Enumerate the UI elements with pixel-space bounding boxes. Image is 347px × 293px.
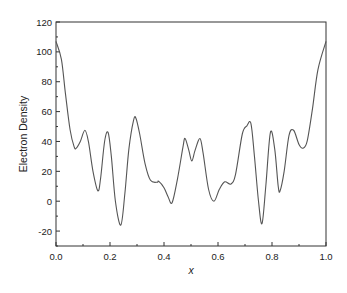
electron-density-line [56, 41, 326, 225]
plot-frame [56, 22, 326, 246]
y-tick-label: 80 [41, 76, 52, 87]
x-tick-label: 0.8 [265, 251, 278, 262]
x-tick-label: 0.4 [157, 251, 170, 262]
y-tick-label: 20 [41, 166, 52, 177]
y-tick-label: 100 [36, 46, 52, 57]
x-tick-label: 0.0 [49, 251, 62, 262]
x-tick-label: 1.0 [319, 251, 332, 262]
x-axis-title: x [187, 264, 194, 276]
x-tick-label: 0.2 [103, 251, 116, 262]
y-tick-label: 0 [47, 196, 52, 207]
y-tick-label: -20 [38, 226, 52, 237]
y-tick-label: 120 [36, 17, 52, 28]
y-axis-title: Electron Density [17, 95, 29, 172]
electron-density-chart: 0.00.20.40.60.81.0 -20020406080100120 x … [0, 0, 347, 293]
y-tick-label: 40 [41, 136, 52, 147]
x-tick-label: 0.6 [211, 251, 224, 262]
x-axis-ticks: 0.00.20.40.60.81.0 [49, 242, 332, 262]
y-tick-label: 60 [41, 106, 52, 117]
